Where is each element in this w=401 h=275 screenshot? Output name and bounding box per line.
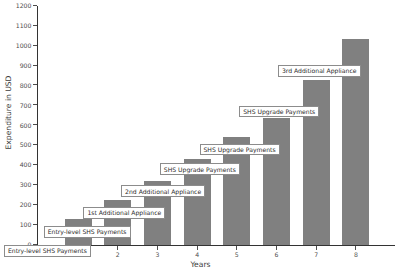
bar-annotation: SHS Upgrade Payments bbox=[200, 144, 280, 156]
x-tick-label: 5 bbox=[225, 246, 249, 258]
x-tick-label: 8 bbox=[344, 246, 368, 258]
x-tick-mark bbox=[276, 246, 277, 250]
y-tick-label: 600 bbox=[20, 121, 37, 131]
x-tick-label: 3 bbox=[145, 246, 169, 258]
x-tick-text: 2 bbox=[116, 251, 120, 258]
y-tick-text: 700 bbox=[20, 101, 32, 111]
y-tick-label: 700 bbox=[20, 101, 37, 111]
y-axis-title: Expenditure in USD bbox=[4, 53, 13, 173]
y-tick-label: 200 bbox=[20, 200, 37, 210]
y-tick-label: 1200 bbox=[16, 1, 37, 11]
y-tick-text: 900 bbox=[20, 61, 32, 71]
x-tick-mark bbox=[117, 246, 118, 250]
y-tick-label: 900 bbox=[20, 61, 37, 71]
x-tick-text: 4 bbox=[195, 251, 199, 258]
y-tick-label: 1100 bbox=[16, 21, 37, 31]
y-tick-label: 400 bbox=[20, 160, 37, 170]
x-axis-title: Years bbox=[0, 260, 401, 269]
x-tick-label: 7 bbox=[304, 246, 328, 258]
y-tick-text: 1100 bbox=[16, 21, 32, 31]
y-tick-label: 500 bbox=[20, 140, 37, 150]
y-tick-text: 400 bbox=[20, 160, 32, 170]
bar-annotation: SHS Upgrade Payments bbox=[160, 163, 240, 175]
bar bbox=[263, 118, 290, 245]
bar-annotation: 2nd Additional Appliance bbox=[121, 185, 205, 197]
x-tick-text: 7 bbox=[314, 251, 318, 258]
bar-annotation: 1st Additional Appliance bbox=[83, 207, 165, 219]
x-tick-mark bbox=[236, 246, 237, 250]
bar bbox=[303, 80, 330, 245]
y-tick-text: 600 bbox=[20, 121, 32, 131]
x-tick-mark bbox=[316, 246, 317, 250]
x-tick-mark bbox=[355, 246, 356, 250]
x-tick-text: 3 bbox=[155, 251, 159, 258]
x-tick-mark bbox=[157, 246, 158, 250]
y-tick-label: 300 bbox=[20, 180, 37, 190]
bar-chart: 1200110010009008007006005004003002001000… bbox=[0, 0, 401, 275]
y-tick-text: 200 bbox=[20, 200, 32, 210]
x-tick-label: 2 bbox=[106, 246, 130, 258]
x-tick-text: 8 bbox=[354, 251, 358, 258]
bar-annotation: SHS Upgrade Payments bbox=[239, 106, 319, 118]
x-tick-label: 6 bbox=[265, 246, 289, 258]
x-tick-text: 5 bbox=[235, 251, 239, 258]
x-tick-label: 4 bbox=[185, 246, 209, 258]
y-tick-label: 100 bbox=[20, 220, 37, 230]
bar-annotation: Entry-level SHS Payments bbox=[44, 226, 131, 238]
x-tick-text: 6 bbox=[275, 251, 279, 258]
bar-annotation: Entry-level SHS Payments bbox=[4, 245, 91, 257]
bar-annotation: 3rd Additional Appliance bbox=[278, 65, 361, 77]
y-tick-text: 300 bbox=[20, 180, 32, 190]
y-tick-text: 1200 bbox=[16, 1, 32, 11]
y-tick-text: 500 bbox=[20, 140, 32, 150]
y-tick-label: 800 bbox=[20, 81, 37, 91]
y-tick-text: 100 bbox=[20, 220, 32, 230]
y-tick-label: 1000 bbox=[16, 41, 37, 51]
x-tick-mark bbox=[197, 246, 198, 250]
y-tick-text: 800 bbox=[20, 81, 32, 91]
y-tick-text: 1000 bbox=[16, 41, 32, 51]
